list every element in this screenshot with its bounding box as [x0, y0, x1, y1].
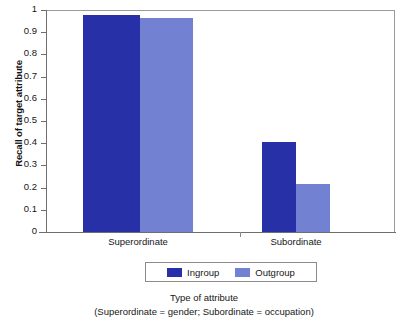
legend-item-ingroup: Ingroup	[167, 267, 219, 278]
y-tick-label: 1	[32, 3, 37, 14]
bar-ingroup-superordinate	[83, 15, 140, 233]
x-tick-label: Superordinate	[78, 236, 198, 247]
x-axis-line	[39, 232, 396, 233]
x-group-divider-tick	[240, 232, 241, 237]
y-tick-label: 0.9	[24, 25, 37, 36]
y-tick-label: 0.6	[24, 92, 37, 103]
y-tick-label: 0.1	[24, 203, 37, 214]
legend-label-outgroup: Outgroup	[255, 267, 295, 278]
x-tick-label: Subordinate	[236, 236, 356, 247]
y-tick-label: 0.5	[24, 114, 37, 125]
y-tick-label: 0.3	[24, 158, 37, 169]
bar-outgroup-subordinate	[296, 184, 330, 233]
y-tick-label: 0.2	[24, 181, 37, 192]
legend-swatch-ingroup	[167, 268, 182, 277]
legend-label-ingroup: Ingroup	[187, 267, 219, 278]
y-tick-label: 0.4	[24, 136, 37, 147]
legend-swatch-outgroup	[235, 268, 250, 277]
bar-outgroup-superordinate	[140, 18, 193, 233]
x-axis-title: Type of attribute	[0, 292, 408, 303]
bars-layer	[47, 11, 394, 232]
x-axis-subtitle: (Superordinate = gender; Subordinate = o…	[0, 306, 408, 317]
bar-chart-figure: Recall of target attribute 10.90.80.70.6…	[0, 0, 408, 324]
y-tick-label: 0	[32, 225, 37, 236]
y-axis-title: Recall of target attribute	[13, 34, 24, 194]
legend-item-outgroup: Outgroup	[235, 267, 295, 278]
y-tick-label: 0.8	[24, 47, 37, 58]
chart-legend: Ingroup Outgroup	[145, 262, 317, 282]
bar-ingroup-subordinate	[262, 142, 296, 233]
plot-area	[47, 10, 395, 232]
y-tick-label: 0.7	[24, 70, 37, 81]
